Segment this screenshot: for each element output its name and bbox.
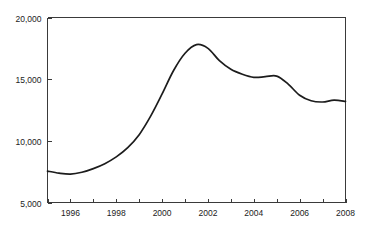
chart-container: 5,00010,00015,00020,000 1996199820002002… [0,0,366,236]
x-tick-label-2002: 2002 [199,208,218,218]
x-tick-label-1998: 1998 [107,208,126,218]
y-tick-label-5000: 5,000 [20,199,42,209]
y-tick-label-10000: 10,000 [16,137,42,147]
y-tick-label-20000: 20,000 [16,14,42,24]
x-tick-label-2006: 2006 [290,208,309,218]
y-tick-label-15000: 15,000 [16,75,42,85]
x-tick-label-2004: 2004 [244,208,263,218]
plot-background [0,0,366,236]
x-tick-label-2000: 2000 [153,208,172,218]
x-tick-label-2008: 2008 [336,208,355,218]
line-chart: 5,00010,00015,00020,000 1996199820002002… [0,0,366,236]
x-tick-label-1996: 1996 [61,208,80,218]
